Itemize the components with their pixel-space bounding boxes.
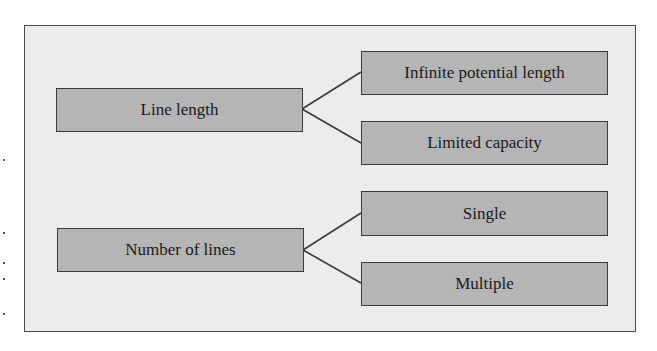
node-single: Single	[361, 191, 608, 236]
node-label: Multiple	[455, 274, 514, 294]
node-label: Number of lines	[125, 240, 235, 260]
margin-mark	[3, 278, 5, 280]
node-number-of-lines: Number of lines	[57, 228, 304, 272]
node-line-length: Line length	[56, 88, 303, 132]
node-label: Line length	[141, 100, 219, 120]
margin-mark	[3, 159, 5, 161]
node-infinite-potential-length: Infinite potential length	[361, 51, 608, 95]
node-label: Infinite potential length	[404, 63, 565, 83]
margin-mark	[3, 232, 5, 234]
margin-mark	[3, 262, 5, 264]
margin-mark	[3, 313, 5, 315]
node-label: Single	[463, 204, 506, 224]
node-label: Limited capacity	[427, 133, 542, 153]
node-multiple: Multiple	[361, 262, 608, 306]
node-limited-capacity: Limited capacity	[361, 121, 608, 165]
